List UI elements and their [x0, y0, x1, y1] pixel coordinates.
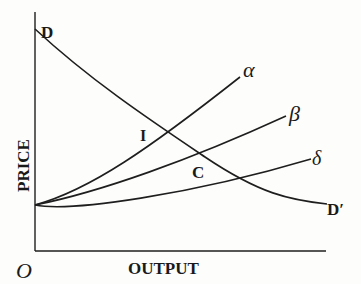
x-axis-label: OUTPUT [128, 259, 200, 278]
supply-curve-delta [35, 159, 311, 207]
point-c-label: C [192, 163, 204, 182]
supply-alpha-label: α [243, 57, 255, 82]
economics-diagram: D D′ α β δ I C OUTPUT O PRICE [0, 0, 361, 284]
demand-end-label: D′ [327, 200, 344, 219]
supply-delta-label: δ [312, 147, 322, 169]
supply-beta-label: β [288, 101, 300, 126]
origin-label: O [16, 258, 32, 283]
y-axis-label: PRICE [14, 139, 33, 192]
demand-start-label: D [41, 23, 53, 42]
point-i-label: I [140, 127, 146, 144]
